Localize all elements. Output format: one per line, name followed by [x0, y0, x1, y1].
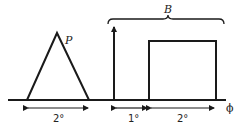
- dim-rect-label: 2°: [177, 113, 188, 124]
- rectangle: [149, 41, 216, 100]
- dim-gap-label: 1°: [128, 113, 139, 124]
- brace-label: B: [163, 3, 172, 16]
- triangle-p: [27, 33, 89, 100]
- phi-label: ϕ: [226, 102, 234, 115]
- triangle-label: P: [64, 34, 73, 47]
- diagram-canvas: P B 2° 1° 2° ϕ: [0, 0, 241, 125]
- dim-triangle-label: 2°: [53, 113, 64, 124]
- brace-b: [108, 15, 224, 24]
- diagram: P B 2° 1° 2° ϕ: [0, 0, 241, 125]
